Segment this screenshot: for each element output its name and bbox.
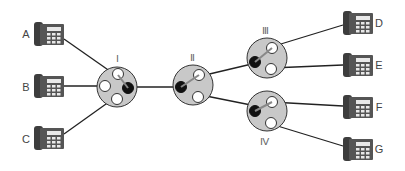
telephone-switching-diagram: Ⅰ Ⅱ Ⅲ Ⅳ A B C D	[0, 0, 405, 171]
switch-IV: Ⅳ	[247, 91, 287, 147]
line-C-I	[64, 99, 113, 134]
switch-III-label: Ⅲ	[262, 25, 269, 36]
phone-G-label: G	[375, 143, 384, 155]
switch-III: Ⅲ	[247, 25, 287, 78]
phone-C-label: C	[22, 133, 30, 145]
phone-D: D	[343, 11, 383, 35]
line-A-I	[64, 39, 114, 74]
phone-icon	[34, 126, 64, 150]
line-IV-G	[271, 124, 343, 146]
phone-icon	[34, 74, 64, 98]
switch-II-label: Ⅱ	[190, 52, 195, 63]
phone-icon	[343, 95, 373, 119]
phone-B: B	[22, 74, 64, 98]
phone-icon	[343, 11, 373, 35]
phone-E-label: E	[375, 59, 382, 71]
phone-A: A	[22, 22, 64, 46]
phone-F: F	[343, 95, 383, 119]
switch-IV-label: Ⅳ	[260, 136, 270, 147]
phone-B-label: B	[22, 81, 29, 93]
phone-C: C	[22, 126, 64, 150]
switch-I: Ⅰ	[97, 53, 137, 107]
phone-A-label: A	[22, 28, 30, 40]
phone-D-label: D	[375, 17, 383, 29]
switch-II: Ⅱ	[173, 52, 213, 105]
phone-icon	[343, 53, 373, 77]
phone-icon	[34, 22, 64, 46]
line-III-D	[271, 25, 343, 47]
phone-F-label: F	[376, 101, 383, 113]
phone-E: E	[343, 53, 383, 77]
switch-I-label: Ⅰ	[116, 53, 119, 64]
phone-G: G	[343, 137, 383, 161]
phone-icon	[343, 137, 373, 161]
